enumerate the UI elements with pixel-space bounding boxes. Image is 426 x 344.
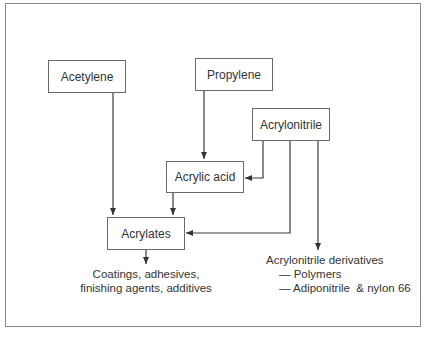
acrylates-uses-line-1: Coatings, adhesives, <box>66 267 226 281</box>
node-acrylic-acid-label: Acrylic acid <box>175 170 236 184</box>
node-acrylonitrile-label: Acrylonitrile <box>260 118 322 132</box>
node-acrylic-acid: Acrylic acid <box>166 161 244 193</box>
node-acetylene-label: Acetylene <box>61 70 114 84</box>
acrylonitrile-derivatives-text: Acrylonitrile derivatives — Polymers — A… <box>266 253 416 295</box>
node-acrylonitrile: Acrylonitrile <box>252 108 330 141</box>
acrylates-uses-line-2: finishing agents, additives <box>66 281 226 295</box>
node-acrylates-label: Acrylates <box>121 227 170 241</box>
node-acetylene: Acetylene <box>48 60 126 93</box>
edge-acrylonitrile-acrylic-acid <box>245 140 263 178</box>
derivatives-item-polymers: — Polymers <box>266 267 416 281</box>
derivatives-title: Acrylonitrile derivatives <box>266 253 416 267</box>
node-acrylates: Acrylates <box>107 217 185 250</box>
acrylates-uses-text: Coatings, adhesives, finishing agents, a… <box>66 267 226 295</box>
node-propylene: Propylene <box>195 58 273 91</box>
node-propylene-label: Propylene <box>207 68 261 82</box>
derivatives-item-adiponitrile: — Adiponitrile & nylon 66 <box>266 281 416 295</box>
